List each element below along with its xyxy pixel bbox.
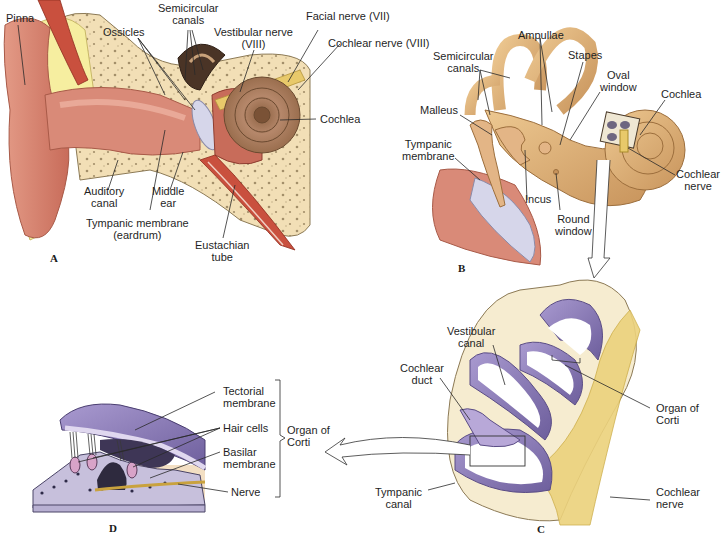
label-facial-nerve: Facial nerve (VII) — [306, 10, 390, 22]
panel-letter-d: D — [109, 522, 117, 534]
label-cochlear-nerve-c: Cochlear nerve — [656, 486, 700, 510]
label-incus: Incus — [525, 193, 551, 205]
label-tympanic-membrane-b: Tympanic membrane — [402, 138, 455, 162]
label-cochlea-a: Cochlea — [320, 113, 360, 125]
label-eustachian-tube: Eustachian tube — [195, 239, 249, 263]
ear-anatomy-figure: Pinna Ossicles Semicircular canals Vesti… — [0, 0, 725, 535]
panel-d-artwork — [33, 404, 205, 512]
panel-letter-c: C — [537, 523, 545, 535]
label-cochlear-duct: Cochlear duct — [400, 362, 444, 386]
label-ampullae: Ampullae — [518, 29, 564, 41]
label-auditory-canal: Auditory canal — [84, 185, 124, 209]
label-vestibular-canal: Vestibular canal — [447, 325, 495, 349]
panel-letter-a: A — [50, 252, 58, 264]
label-semicircular-canals-a: Semicircular canals — [158, 2, 219, 26]
label-middle-ear: Middle ear — [152, 185, 184, 209]
zoom-arrow-c-to-d — [325, 438, 470, 466]
label-tympanic-membrane-a: Tympanic membrane (eardrum) — [86, 217, 189, 241]
label-cochlear-nerve-a: Cochlear nerve (VIII) — [328, 37, 429, 49]
label-organ-of-corti-c: Organ of Corti — [656, 402, 699, 426]
label-pinna: Pinna — [6, 12, 34, 24]
label-organ-of-corti-d: Organ of Corti — [287, 424, 330, 448]
label-basilar-membrane: Basilar membrane — [223, 446, 276, 470]
label-stapes: Stapes — [568, 49, 602, 61]
label-malleus: Malleus — [420, 104, 458, 116]
label-oval-window: Oval window — [600, 69, 637, 93]
label-cochlea-b: Cochlea — [661, 88, 701, 100]
label-cochlear-nerve-b: Cochlear nerve — [676, 168, 720, 192]
label-tectorial-membrane: Tectorial membrane — [223, 385, 276, 409]
label-round-window: Round window — [555, 213, 592, 237]
label-tympanic-canal: Tympanic canal — [375, 486, 422, 510]
label-hair-cells: Hair cells — [223, 422, 268, 434]
label-vestibular-nerve: Vestibular nerve (VIII) — [214, 26, 293, 50]
label-semicircular-canals-b: Semicircular canals — [433, 50, 494, 74]
label-nerve: Nerve — [231, 486, 260, 498]
panel-c-artwork — [448, 280, 641, 525]
panel-letter-b: B — [458, 262, 465, 274]
label-ossicles: Ossicles — [103, 26, 145, 38]
